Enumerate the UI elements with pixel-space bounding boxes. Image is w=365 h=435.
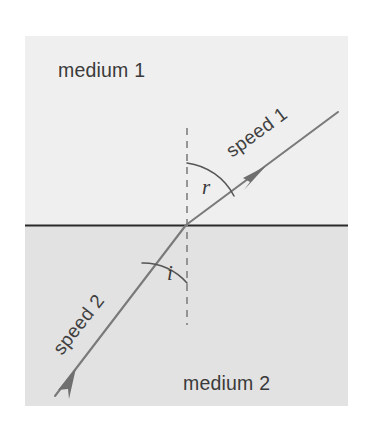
angle-r-label: r [202, 175, 211, 199]
refraction-diagram: medium 1 medium 2 speed 1 speed 2 r i [0, 0, 365, 435]
medium-2-label: medium 2 [183, 372, 270, 394]
angle-i-label: i [167, 261, 173, 285]
medium-1-label: medium 1 [58, 59, 145, 81]
figure-root: medium 1 medium 2 speed 1 speed 2 r i [0, 0, 365, 435]
